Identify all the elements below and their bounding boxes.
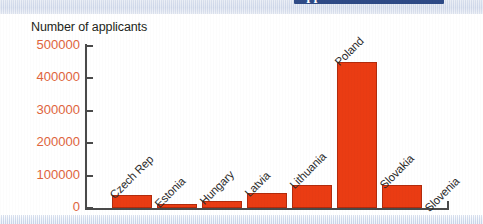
y-tick-label: 300000 bbox=[0, 102, 80, 117]
chart-axis-title: Number of applicants bbox=[31, 20, 147, 34]
x-axis-line bbox=[85, 208, 449, 210]
chart-screenshot: applicants Number of applicants 50000040… bbox=[0, 0, 483, 224]
bar-label: Czech Rep bbox=[108, 153, 156, 201]
chart-plot-area: Number of applicants 5000004000003000002… bbox=[0, 14, 483, 215]
x-axis-end-tick bbox=[447, 201, 449, 209]
y-axis-line bbox=[85, 44, 87, 210]
y-tick-label: 400000 bbox=[0, 69, 80, 84]
y-tick-label: 500000 bbox=[0, 37, 80, 52]
y-tick-mark bbox=[85, 142, 93, 144]
bar bbox=[337, 62, 377, 208]
slide-title-text: applicants bbox=[300, 0, 357, 3]
y-tick-mark bbox=[85, 110, 93, 112]
y-tick-mark bbox=[85, 207, 93, 209]
y-tick-mark bbox=[85, 45, 93, 47]
bottom-band-texture bbox=[0, 215, 483, 224]
y-tick-mark bbox=[85, 77, 93, 79]
y-tick-mark bbox=[85, 175, 93, 177]
y-tick-label: 100000 bbox=[0, 167, 80, 182]
y-tick-label: 0 bbox=[0, 199, 80, 214]
y-tick-label: 200000 bbox=[0, 134, 80, 149]
slide-title-chip: applicants bbox=[294, 0, 444, 4]
